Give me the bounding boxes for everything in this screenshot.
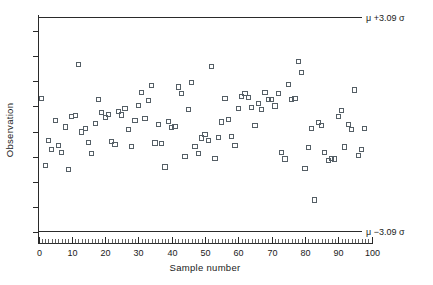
x-axis-tick-label: 70 (267, 248, 277, 258)
x-axis-tick-label: 50 (200, 248, 210, 258)
x-axis-tick-label: 40 (167, 248, 177, 258)
x-axis-tick-label: 0 (37, 248, 42, 258)
x-axis-tick-label: 10 (67, 248, 77, 258)
x-axis-tick-label: 20 (100, 248, 110, 258)
chart-background (0, 0, 433, 285)
x-axis-tick-label: 30 (133, 248, 143, 258)
upper-control-limit-label: μ +3.09 σ (366, 13, 405, 23)
x-axis-tick-label: 90 (333, 248, 343, 258)
chart-canvas: 0102030405060708090100 μ +3.09 σμ −3.09 … (0, 0, 433, 285)
x-axis-tick-label: 60 (233, 248, 243, 258)
lower-control-limit-label: μ −3.09 σ (366, 227, 405, 237)
y-axis-title: Observation (4, 103, 15, 158)
x-axis-title: Sample number (170, 262, 241, 273)
x-axis-tick-label: 80 (300, 248, 310, 258)
control-chart-figure: 0102030405060708090100 μ +3.09 σμ −3.09 … (0, 0, 433, 285)
x-axis-tick-label: 100 (365, 248, 380, 258)
